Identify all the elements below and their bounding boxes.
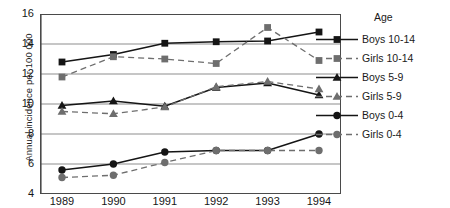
legend-label: Girls 10-14 <box>362 53 413 64</box>
data-point-triangle <box>263 77 272 85</box>
data-point-square <box>334 36 341 43</box>
data-point-square <box>161 56 168 63</box>
data-point-circle <box>58 166 65 173</box>
data-point-circle <box>161 148 168 155</box>
legend-item: Boys 5-9 <box>362 68 450 87</box>
y-tick-label: 10 <box>8 98 34 109</box>
data-point-square <box>334 55 341 62</box>
legend-swatch <box>314 125 360 144</box>
data-point-square <box>59 74 66 81</box>
plot-area <box>40 14 341 194</box>
y-tick-label: 8 <box>8 128 34 139</box>
data-point-square <box>110 53 117 60</box>
legend-swatch <box>314 87 360 106</box>
legend-label: Girls 0-4 <box>362 129 402 140</box>
data-point-circle <box>110 160 117 167</box>
y-axis-tick-labels: 16141210864 <box>0 0 34 208</box>
data-point-circle <box>333 111 340 118</box>
legend-swatch <box>314 49 360 68</box>
legend-swatch <box>314 30 360 49</box>
series-line <box>62 28 319 78</box>
data-point-circle <box>333 130 340 137</box>
series-boys-10-14 <box>59 29 323 66</box>
legend-item: Girls 5-9 <box>362 87 450 106</box>
legend-item: Boys 0-4 <box>362 106 450 125</box>
legend-swatch <box>314 106 360 125</box>
legend-rows: Boys 10-14Girls 10-14Boys 5-9Girls 5-9Bo… <box>362 30 450 144</box>
legend: Age Boys 10-14Girls 10-14Boys 5-9Girls 5… <box>362 12 450 144</box>
series-boys-0-4 <box>58 130 322 173</box>
data-point-square <box>59 59 66 66</box>
legend-item: Girls 0-4 <box>362 125 450 144</box>
data-point-circle <box>213 147 220 154</box>
y-tick-label: 16 <box>8 8 34 19</box>
series-line <box>62 134 319 170</box>
legend-item: Girls 10-14 <box>362 49 450 68</box>
data-point-square <box>264 24 271 31</box>
series-girls-5-9 <box>58 77 324 117</box>
chart-figure: Annual incidence per 100 000 16141210864… <box>0 0 450 208</box>
data-point-square <box>213 60 220 67</box>
plot-svg <box>40 14 341 194</box>
legend-label: Boys 5-9 <box>362 72 403 83</box>
series-boys-5-9 <box>58 79 324 110</box>
y-tick-label: 12 <box>8 68 34 79</box>
y-tick-label: 14 <box>8 38 34 49</box>
data-point-circle <box>315 147 322 154</box>
legend-title: Age <box>374 12 450 23</box>
series-line <box>62 83 319 106</box>
series-girls-10-14 <box>59 24 323 80</box>
legend-swatch <box>314 68 360 87</box>
data-point-square <box>213 38 220 45</box>
legend-label: Boys 0-4 <box>362 110 403 121</box>
legend-label: Girls 5-9 <box>362 91 402 102</box>
data-point-circle <box>110 172 117 179</box>
legend-label: Boys 10-14 <box>362 34 415 45</box>
data-point-square <box>161 40 168 47</box>
y-tick-label: 4 <box>8 188 34 199</box>
data-point-circle <box>264 147 271 154</box>
data-point-circle <box>58 174 65 181</box>
data-point-square <box>264 38 271 45</box>
data-point-circle <box>161 159 168 166</box>
series-line <box>62 32 319 62</box>
legend-item: Boys 10-14 <box>362 30 450 49</box>
y-tick-label: 6 <box>8 158 34 169</box>
x-tick-label: 1994 <box>289 196 349 207</box>
series-layer <box>58 24 324 181</box>
